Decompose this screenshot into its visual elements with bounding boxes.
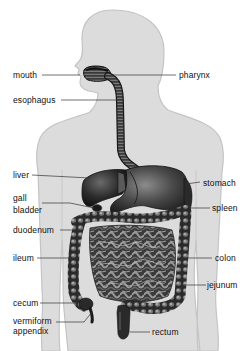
label-stomach: stomach	[203, 178, 236, 188]
label-esophagus: esophagus	[13, 95, 56, 105]
label-appendix: appendix	[13, 326, 48, 336]
rectum-organ	[117, 305, 130, 339]
label-pharynx: pharynx	[179, 70, 210, 80]
label-rectum: rectum	[152, 327, 179, 337]
label-gall: gall	[13, 193, 27, 203]
label-vermiform: vermiform	[13, 316, 52, 326]
label-mouth: mouth	[13, 70, 37, 80]
digestive-system-diagram: mouth esophagus liver gall bladder duode…	[0, 0, 251, 351]
label-colon: colon	[215, 253, 236, 263]
label-bladder: bladder	[13, 205, 42, 215]
label-cecum: cecum	[13, 298, 39, 308]
label-liver: liver	[13, 170, 29, 180]
label-jejunum: jejunum	[207, 280, 237, 290]
small-intestine-organ	[89, 225, 175, 302]
label-ileum: ileum	[13, 253, 34, 263]
label-duodenum: duodenum	[13, 225, 54, 235]
label-spleen: spleen	[212, 203, 238, 213]
